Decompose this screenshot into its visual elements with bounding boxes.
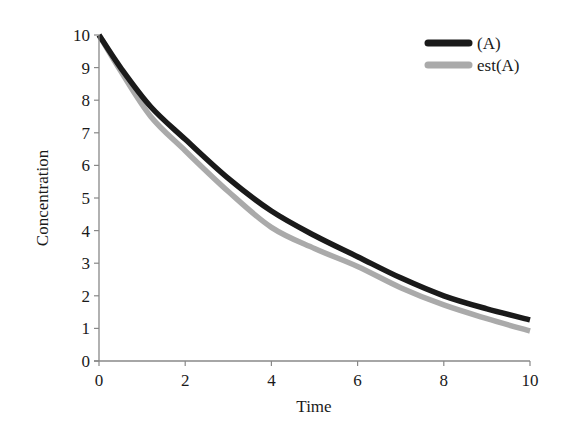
y-tick-label: 8 xyxy=(82,91,91,110)
x-tick-label: 6 xyxy=(353,371,362,390)
x-tick-label: 2 xyxy=(181,371,190,390)
x-tick-label: 10 xyxy=(522,371,539,390)
legend-label-est-a: est(A) xyxy=(477,56,519,75)
series-line-est-a xyxy=(99,35,530,331)
y-axis-label: Concentration xyxy=(33,149,52,246)
x-tick-label: 4 xyxy=(267,371,276,390)
y-tick-label: 9 xyxy=(82,59,91,78)
line-chart: 0123456789100246810 (A)est(A) Time Conce… xyxy=(0,0,563,441)
legend: (A)est(A) xyxy=(428,34,519,75)
y-tick-label: 3 xyxy=(82,254,91,273)
series-line-a xyxy=(99,35,530,320)
x-axis-label: Time xyxy=(296,397,331,416)
y-tick-label: 10 xyxy=(73,26,90,45)
y-tick-label: 7 xyxy=(82,124,91,143)
y-tick-label: 0 xyxy=(82,352,91,371)
y-tick-label: 6 xyxy=(82,156,91,175)
y-tick-label: 4 xyxy=(82,222,91,241)
x-tick-label: 0 xyxy=(95,371,104,390)
x-tick-label: 8 xyxy=(440,371,449,390)
y-tick-label: 2 xyxy=(82,287,91,306)
legend-label-a: (A) xyxy=(477,34,501,53)
plot-lines xyxy=(99,35,530,331)
y-tick-label: 1 xyxy=(82,319,91,338)
axes: 0123456789100246810 xyxy=(73,26,539,390)
y-tick-label: 5 xyxy=(82,189,91,208)
